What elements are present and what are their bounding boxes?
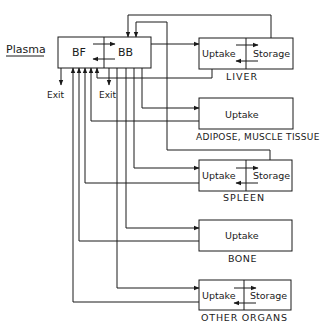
adipose-uptake-label: Uptake	[225, 109, 259, 120]
bb-to-bone-arrow	[126, 68, 199, 228]
bb-to-other-arrow	[117, 68, 199, 288]
other-organs-name: OTHER ORGANS	[201, 312, 288, 323]
spleen-storage-label: Storage	[253, 170, 290, 181]
exit-left-label: Exit	[47, 90, 65, 100]
spleen-uptake-label: Uptake	[202, 170, 236, 181]
liver-to-bf-line	[97, 68, 212, 78]
bone-uptake-label: Uptake	[225, 230, 259, 241]
spleen-name: SPLEEN	[223, 192, 265, 203]
liver-uptake-label: Uptake	[202, 48, 236, 59]
other-to-bf-line	[73, 68, 199, 302]
plasma-label: Plasma	[6, 43, 46, 56]
bb-to-adipose-arrow	[142, 68, 199, 108]
bone-to-bf-line	[79, 68, 199, 241]
bf-label: BF	[72, 46, 86, 59]
liver-storage-label: Storage	[253, 48, 290, 59]
liver-name: LIVER	[226, 71, 258, 82]
exit-right-label: Exit	[99, 90, 117, 100]
bb-label: BB	[118, 46, 133, 59]
adipose-name: ADIPOSE, MUSCLE TISSUE	[196, 132, 320, 142]
other-storage-label: Storage	[250, 290, 287, 301]
compartment-diagram: Plasma BF BB Exit Exit Uptake Storage LI…	[0, 0, 335, 333]
other-uptake-label: Uptake	[202, 290, 236, 301]
bone-name: BONE	[228, 253, 257, 264]
liver-return-line	[128, 15, 271, 38]
